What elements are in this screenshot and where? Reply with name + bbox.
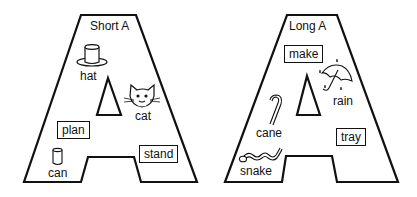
cane-label: cane <box>256 126 282 140</box>
can-label: can <box>48 166 67 180</box>
short-a-title: Short A <box>90 19 129 33</box>
long-a-title: Long A <box>289 19 326 33</box>
tray-word-box: tray <box>336 128 366 146</box>
hat-label: hat <box>80 69 97 83</box>
make-word-box: make <box>284 45 323 63</box>
stand-word-box: stand <box>139 145 178 163</box>
rain-label: rain <box>333 94 353 108</box>
snake-label: snake <box>240 164 272 178</box>
phonics-diagram: Short A hat cat plan stand can Long A ma… <box>0 0 417 197</box>
cat-label: cat <box>135 109 151 123</box>
plan-word-box: plan <box>57 121 90 139</box>
can-icon <box>53 148 62 164</box>
